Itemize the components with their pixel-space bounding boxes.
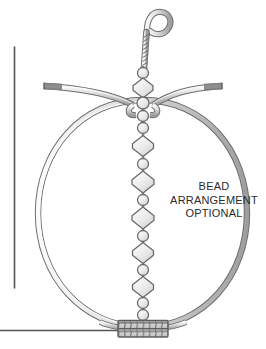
bead-diamond — [133, 243, 154, 264]
bead-diamond — [132, 207, 154, 229]
bead-round — [138, 231, 149, 242]
bead-diamond — [133, 277, 154, 298]
bead-diamond — [133, 78, 153, 98]
twisted-wire-stem — [142, 32, 149, 68]
bead-column — [132, 66, 154, 322]
bead-round — [137, 97, 149, 109]
bead-diamond — [133, 136, 154, 157]
left-wire-arm — [44, 83, 133, 105]
hanging-loop — [147, 12, 171, 34]
figure-root: BEAD ARRANGEMENT OPTIONAL — [0, 0, 266, 349]
bead-round — [138, 123, 149, 134]
bead-round — [138, 111, 149, 122]
caption-line-3: OPTIONAL — [166, 207, 262, 221]
bead-round — [138, 310, 149, 321]
bead-round — [138, 68, 149, 79]
bead-round — [138, 195, 149, 206]
bead-round — [138, 298, 149, 309]
right-wire-arm — [153, 83, 222, 105]
bead-arrangement-note: BEAD ARRANGEMENT OPTIONAL — [166, 180, 262, 221]
bead-diamond — [132, 171, 154, 193]
bead-round — [138, 159, 149, 170]
beaded-hanger-illustration — [0, 0, 266, 349]
caption-line-2: ARRANGEMENT — [166, 194, 262, 208]
caption-line-1: BEAD — [166, 180, 262, 194]
bead-round — [138, 265, 149, 276]
